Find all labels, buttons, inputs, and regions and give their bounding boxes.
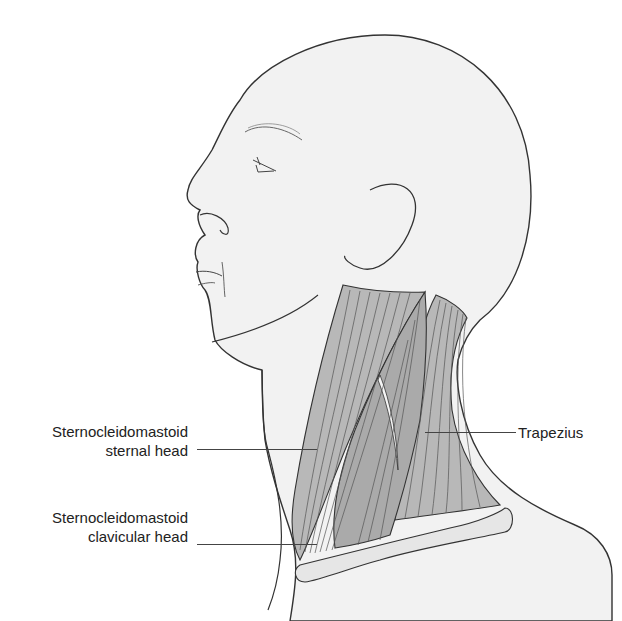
anatomy-figure: Sternocleidomastoid sternal head Sternoc… — [0, 0, 622, 621]
label-scm-clavicular: Sternocleidomastoid clavicular head — [30, 508, 188, 546]
label-trapezius: Trapezius — [518, 423, 583, 442]
leader-line-scm-sternal — [197, 449, 317, 450]
label-scm-sternal: Sternocleidomastoid sternal head — [30, 422, 188, 460]
leader-line-trapezius — [425, 432, 516, 433]
leader-line-scm-clavicular — [197, 544, 317, 545]
